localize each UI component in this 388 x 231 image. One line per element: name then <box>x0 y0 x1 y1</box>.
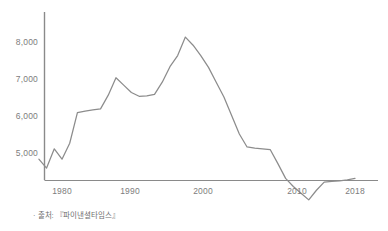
y-tick-label-5000: 5,000 <box>4 148 38 158</box>
x-tick-label-1980: 1980 <box>42 186 82 196</box>
data-series-line <box>39 37 355 200</box>
line-chart-plot <box>0 0 388 231</box>
source-caption: · 출처: 『파이낸셜타임스』 <box>33 209 119 220</box>
y-tick-label-6000: 6,000 <box>4 111 38 121</box>
y-tick-label-8000: 8,000 <box>4 37 38 47</box>
x-tick-label-1990: 1990 <box>110 186 150 196</box>
x-tick-label-2000: 2000 <box>183 186 223 196</box>
chart-figure: 5,000 6,000 7,000 8,000 1980 1990 2000 2… <box>0 0 388 231</box>
x-tick-label-2010: 2010 <box>277 186 317 196</box>
y-tick-label-7000: 7,000 <box>4 74 38 84</box>
x-tick-label-2018: 2018 <box>335 186 375 196</box>
